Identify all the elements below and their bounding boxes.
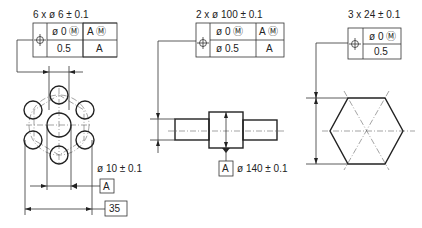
frame-1-datum-1: A Ⓜ xyxy=(87,26,106,37)
drawing-2-feature-control-frame: ø 0 Ⓜ A Ⓜ ø 0.5 A xyxy=(196,23,284,57)
frame-1-datum-2: A xyxy=(96,43,103,54)
drawing-2-diameter-label: ø 140 ± 0.1 xyxy=(237,163,288,174)
drawing-2-title: 2 x ø 100 ± 0.1 xyxy=(196,9,263,20)
frame-2-datum-2: A xyxy=(266,43,273,54)
frame-2-datum-1: A Ⓜ xyxy=(259,26,278,37)
drawing-3-feature-control-frame: ø 0 Ⓜ 0.5 xyxy=(348,28,401,59)
drawing-1-diameter-label: ø 10 ± 0.1 xyxy=(97,163,142,174)
drawing-1-basic-dimension: 35 xyxy=(109,203,121,214)
drawing-3-title: 3 x 24 ± 0.1 xyxy=(348,9,401,20)
frame-2-tolerance-1: ø 0 Ⓜ xyxy=(216,26,243,37)
drawing-1-title: 6 x ø 6 ± 0.1 xyxy=(33,9,89,20)
drawing-1-pattern-of-holes: 6 x ø 6 ± 0.1 ø 0 Ⓜ A Ⓜ 0.5 A xyxy=(17,9,142,216)
drawing-3-hexagon: 3 x 24 ± 0.1 ø 0 Ⓜ 0.5 xyxy=(306,9,415,170)
frame-3-tolerance-1: ø 0 Ⓜ xyxy=(369,31,396,42)
frame-1-tolerance-2: 0.5 xyxy=(57,43,71,54)
drawing-2-datum-label: A xyxy=(222,163,229,174)
drawing-2-coaxial-shaft: 2 x ø 100 ± 0.1 ø 0 Ⓜ A Ⓜ ø 0.5 A xyxy=(150,9,288,176)
drawing-1-datum-label: A xyxy=(103,181,110,192)
frame-3-tolerance-2: 0.5 xyxy=(374,46,388,57)
frame-2-tolerance-2: ø 0.5 xyxy=(216,43,239,54)
drawing-1-feature-control-frame: ø 0 Ⓜ A Ⓜ 0.5 A xyxy=(33,23,117,57)
frame-1-tolerance-1: ø 0 Ⓜ xyxy=(52,26,79,37)
